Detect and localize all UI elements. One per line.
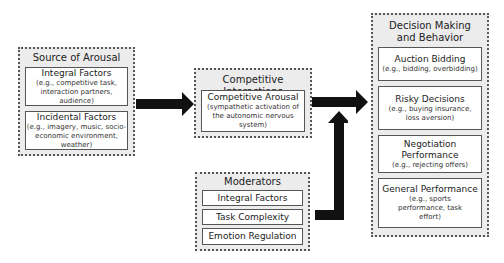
general-performance-box: General Performance (e.g., sports perfor…	[378, 178, 482, 228]
competitive-arousal-title: Competitive Arousal	[207, 92, 298, 103]
negotiation-performance-examples: (e.g., rejecting offers)	[392, 161, 468, 170]
general-performance-examples: (e.g., sports performance, task effort)	[379, 195, 481, 222]
incidental-factors-examples: (e.g., imagery, music, socio-economic en…	[26, 123, 127, 150]
decision-making-group: Decision Making and Behavior Auction Bid…	[371, 13, 489, 237]
competitive-interactions-group: Competitive Interactions Competitive Aro…	[194, 68, 312, 138]
incidental-factors-title: Incidental Factors	[37, 112, 116, 123]
moderator-integral-factors-box: Integral Factors	[202, 190, 303, 206]
source-of-arousal-title: Source of Arousal	[20, 52, 133, 64]
negotiation-performance-title: Negotiation Performance	[379, 139, 481, 161]
auction-bidding-box: Auction Bidding (e.g., bidding, overbidd…	[378, 47, 482, 81]
negotiation-performance-box: Negotiation Performance (e.g., rejecting…	[378, 135, 482, 173]
source-of-arousal-group: Source of Arousal Integral Factors (e.g.…	[18, 47, 135, 156]
arrow-moderators-up-icon	[312, 110, 348, 222]
risky-decisions-title: Risky Decisions	[395, 94, 465, 105]
moderator-task-complexity-box: Task Complexity	[202, 209, 303, 225]
integral-factors-examples: (e.g., competitive task, interaction par…	[26, 79, 127, 106]
integral-factors-box: Integral Factors (e.g., competitive task…	[25, 67, 128, 106]
integral-factors-title: Integral Factors	[42, 68, 112, 79]
competitive-arousal-box: Competitive Arousal (sympathetic activat…	[201, 90, 305, 132]
competitive-arousal-description: (sympathetic activation of the autonomic…	[202, 103, 304, 130]
auction-bidding-title: Auction Bidding	[395, 54, 466, 65]
moderator-emotion-regulation-box: Emotion Regulation	[202, 228, 303, 245]
moderator-integral-factors-label: Integral Factors	[218, 193, 288, 204]
moderator-task-complexity-label: Task Complexity	[216, 212, 289, 223]
moderator-emotion-regulation-label: Emotion Regulation	[208, 231, 296, 242]
risky-decisions-box: Risky Decisions (e.g., buying insurance,…	[378, 86, 482, 130]
arrow-source-to-competitive-icon	[136, 91, 196, 117]
incidental-factors-box: Incidental Factors (e.g., imagery, music…	[25, 111, 128, 150]
moderators-title: Moderators	[197, 176, 308, 188]
decision-making-title: Decision Making and Behavior	[373, 20, 487, 44]
auction-bidding-examples: (e.g., bidding, overbidding)	[382, 65, 477, 74]
general-performance-title: General Performance	[382, 184, 477, 195]
risky-decisions-examples: (e.g., buying insurance, loss aversion)	[379, 105, 481, 123]
moderators-group: Moderators Integral Factors Task Complex…	[195, 172, 310, 251]
